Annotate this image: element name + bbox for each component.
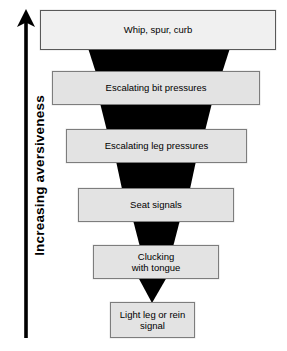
aversiveness-funnel-figure: Increasing aversiveness Whip, spur, curb… bbox=[0, 0, 287, 351]
funnel-segment-4 bbox=[133, 220, 180, 247]
funnel-segment-3 bbox=[116, 161, 196, 189]
funnel-segment-5-tip bbox=[138, 277, 167, 303]
stage-label-3: Escalating leg pressures bbox=[102, 140, 212, 152]
stage-label-4: Seat signals bbox=[127, 199, 185, 211]
stage-label-5: Clucking with tongue bbox=[129, 251, 184, 274]
stage-box-4: Seat signals bbox=[78, 188, 234, 222]
stage-box-1: Whip, spur, curb bbox=[40, 10, 276, 50]
funnel-segment-2 bbox=[100, 103, 212, 131]
stage-box-6: Light leg or rein signal bbox=[110, 302, 195, 338]
axis-arrow-shaft bbox=[24, 22, 28, 338]
stage-box-2: Escalating bit pressures bbox=[52, 71, 260, 105]
stage-label-2: Escalating bit pressures bbox=[103, 82, 210, 94]
funnel-segment-1 bbox=[88, 48, 230, 73]
stage-label-1: Whip, spur, curb bbox=[121, 24, 196, 36]
stage-box-3: Escalating leg pressures bbox=[66, 129, 247, 163]
axis-label-increasing-aversiveness: Increasing aversiveness bbox=[32, 61, 47, 291]
stage-box-5: Clucking with tongue bbox=[93, 245, 219, 279]
stage-label-6: Light leg or rein signal bbox=[117, 309, 188, 332]
